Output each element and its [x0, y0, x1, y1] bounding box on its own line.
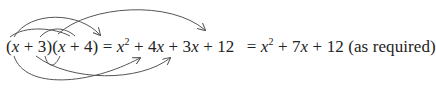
simplified: x2 + 7x + 12	[261, 37, 344, 56]
equals-1: =	[98, 37, 116, 56]
equals-2: =	[242, 37, 260, 56]
arrow-first-icon	[14, 17, 100, 37]
arrow-loop-c-icon	[45, 56, 60, 65]
arrow-outer-icon	[14, 56, 140, 80]
expansion: x2 + 4x + 3x + 12	[117, 37, 235, 56]
factor-1: (x + 3)	[6, 37, 52, 56]
note: (as required)	[344, 37, 436, 56]
equation: (x + 3)(x + 4) = x2 + 4x + 3x + 12 = x2 …	[6, 37, 436, 57]
factor-2: (x + 4)	[52, 37, 98, 56]
